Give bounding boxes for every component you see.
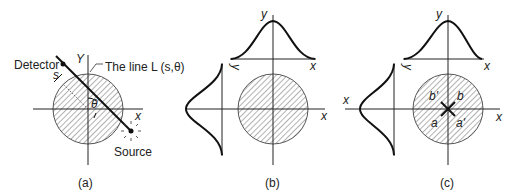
line-label: The line L (s,θ) [105, 60, 185, 74]
panel-a: Detector Y The line L (s,θ) s θ x Source… [14, 52, 185, 190]
left-projection-y-label: y [229, 63, 243, 71]
panel-b: y x y x (b) [185, 7, 328, 190]
left-projection-x-label: x [342, 93, 350, 107]
panel-c: y x y x x b' b a a' (c) [342, 7, 503, 190]
y-axis-label: y [260, 7, 268, 21]
theta-label: θ [91, 97, 98, 111]
y-axis-label: y [435, 7, 443, 21]
panel-caption: (b) [265, 176, 280, 190]
top-projection-x-label: x [483, 59, 491, 73]
top-projection-x-label: x [309, 59, 317, 73]
detector-icon [61, 62, 66, 67]
top-projection-curve [404, 21, 482, 59]
y-axis-label: Y [76, 52, 85, 66]
panel-caption: (a) [78, 176, 93, 190]
line-label-leader [90, 64, 103, 72]
quadrant-label-a: a [431, 116, 438, 130]
quadrant-label-b: b [457, 89, 464, 103]
source-icon [121, 121, 141, 141]
source-label: Source [114, 145, 152, 159]
x-axis-label: x [134, 109, 142, 123]
x-axis-label: x [320, 109, 328, 123]
x-axis-label: x [495, 110, 503, 124]
quadrant-label-a-prime: a' [456, 116, 466, 130]
s-label: s [53, 68, 59, 82]
left-projection-y-label: y [401, 63, 415, 71]
panel-caption: (c) [440, 176, 454, 190]
tomography-figure: Detector Y The line L (s,θ) s θ x Source… [0, 0, 516, 195]
quadrant-label-b-prime: b' [429, 89, 439, 103]
